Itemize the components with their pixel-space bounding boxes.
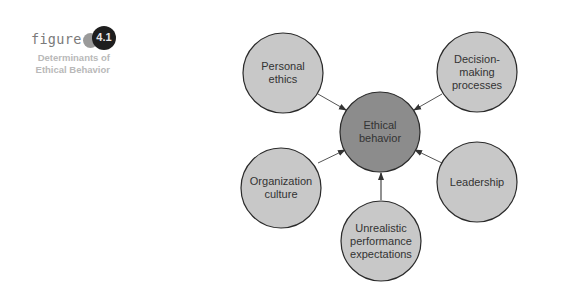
node-decision-making-line1: Decision- [452, 53, 502, 66]
arrow-personal-ethics [318, 94, 346, 110]
node-unrealistic-expectations-line2: performance [350, 235, 412, 248]
node-personal-ethics-label: Personal ethics [243, 53, 323, 93]
node-decision-making-line3: processes [452, 79, 502, 92]
node-leadership-label: Leadership [437, 172, 517, 192]
node-unrealistic-expectations-line1: Unrealistic [350, 222, 412, 235]
node-unrealistic-expectations-label: Unrealistic performance expectations [341, 215, 421, 267]
diagram-canvas [0, 0, 563, 285]
node-center-line2: behavior [359, 132, 401, 145]
node-organization-culture-label: Organization culture [241, 168, 321, 208]
node-center-line1: Ethical [359, 119, 401, 132]
node-decision-making-label: Decision- making processes [437, 46, 517, 98]
node-personal-ethics-line2: ethics [261, 73, 304, 86]
node-organization-culture-line2: culture [250, 188, 312, 201]
node-personal-ethics-line1: Personal [261, 60, 304, 73]
node-center-label: Ethical behavior [340, 112, 420, 152]
node-leadership-line1: Leadership [450, 176, 504, 189]
node-organization-culture-line1: Organization [250, 175, 312, 188]
node-unrealistic-expectations-line3: expectations [350, 248, 412, 261]
node-decision-making-line2: making [452, 66, 502, 79]
